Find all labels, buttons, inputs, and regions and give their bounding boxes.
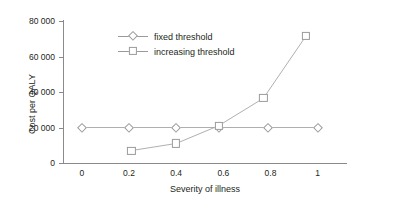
chart-legend: fixed threshold increasing threshold (118, 29, 235, 59)
y-axis-tick (59, 128, 63, 129)
x-axis-tick-label: 0.8 (265, 168, 277, 178)
y-axis-tick (59, 57, 63, 58)
x-axis-tick-label: 1 (315, 168, 320, 178)
x-axis-title: Severity of illness (63, 184, 347, 194)
x-axis-line (63, 163, 347, 164)
y-axis-tick (59, 21, 63, 22)
y-axis-tick-label: 80 000 (29, 16, 55, 26)
legend-key-fixed (118, 31, 148, 42)
y-axis-tick-label: 20 000 (29, 123, 55, 133)
y-axis-tick-label: 40 000 (29, 87, 55, 97)
legend-label: increasing threshold (154, 47, 235, 57)
square-marker-icon (129, 47, 137, 55)
chart-figure: Cost per QALY 020 00040 00060 00080 000 … (0, 0, 395, 208)
diamond-marker-icon (128, 31, 138, 41)
legend-key-increasing (118, 46, 148, 57)
y-axis-tick-label: 0 (50, 158, 55, 168)
y-axis-tick (59, 163, 63, 164)
y-axis-tick (59, 92, 63, 93)
x-axis-tick-label: 0.2 (123, 168, 135, 178)
legend-item-increasing-threshold: increasing threshold (118, 44, 235, 59)
x-axis-tick-label: 0.6 (217, 168, 229, 178)
data-point-marker (215, 122, 223, 130)
data-point-marker (259, 94, 267, 102)
data-point-marker (172, 139, 180, 147)
y-axis-tick-label: 60 000 (29, 52, 55, 62)
x-axis-tick-label: 0.4 (170, 168, 182, 178)
legend-item-fixed-threshold: fixed threshold (118, 29, 235, 44)
x-axis-tick-label: 0 (79, 168, 84, 178)
data-point-marker (127, 146, 135, 154)
legend-label: fixed threshold (154, 32, 213, 42)
data-point-marker (302, 32, 310, 40)
